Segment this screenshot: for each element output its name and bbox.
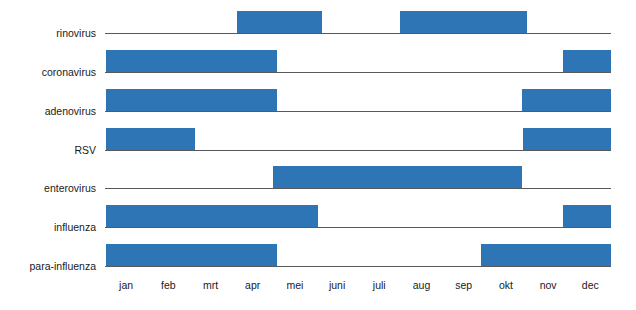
row-baseline <box>105 111 611 112</box>
chart-row: coronavirus <box>0 46 636 86</box>
chart-row: influenza <box>0 201 636 241</box>
bar-para-influenza-0 <box>106 244 277 266</box>
month-axis: janfebmrtaprmeijunijuliaugsepoktnovdec <box>0 278 636 294</box>
chart-row: adenovirus <box>0 85 636 125</box>
month-label-feb: feb <box>147 278 189 292</box>
seasonal-virus-gantt-chart: rinoviruscoronavirusadenovirusRSVenterov… <box>0 0 636 310</box>
month-label-nov: nov <box>527 278 569 292</box>
month-label-okt: okt <box>485 278 527 292</box>
chart-row: RSV <box>0 124 636 164</box>
row-label-adenovirus: adenovirus <box>0 105 96 117</box>
month-label-mrt: mrt <box>189 278 231 292</box>
row-label-enterovirus: enterovirus <box>0 182 96 194</box>
bar-adenovirus-0 <box>106 89 277 111</box>
chart-row: enterovirus <box>0 162 636 202</box>
bar-adenovirus-1 <box>522 89 611 111</box>
bar-rsv-0 <box>106 128 195 150</box>
month-label-jan: jan <box>105 278 147 292</box>
row-baseline <box>105 266 611 267</box>
month-label-juni: juni <box>316 278 358 292</box>
row-label-influenza: influenza <box>0 221 96 233</box>
row-baseline <box>105 33 611 34</box>
month-label-sep: sep <box>443 278 485 292</box>
row-label-para-influenza: para-influenza <box>0 260 96 272</box>
bar-coronavirus-1 <box>563 50 611 72</box>
bar-influenza-0 <box>106 205 318 227</box>
bar-para-influenza-1 <box>481 244 611 266</box>
row-baseline <box>105 72 611 73</box>
bar-rsv-1 <box>523 128 611 150</box>
bar-rinovirus-1 <box>400 11 527 33</box>
row-label-rsv: RSV <box>0 144 96 156</box>
bar-enterovirus-0 <box>273 166 522 188</box>
chart-row: para-influenza <box>0 240 636 280</box>
month-label-aug: aug <box>400 278 442 292</box>
month-label-mei: mei <box>274 278 316 292</box>
bar-influenza-1 <box>563 205 611 227</box>
row-baseline <box>105 188 611 189</box>
bar-rinovirus-0 <box>237 11 322 33</box>
row-baseline <box>105 150 611 151</box>
row-baseline <box>105 227 611 228</box>
bar-coronavirus-0 <box>106 50 277 72</box>
chart-row: rinovirus <box>0 7 636 47</box>
row-label-rinovirus: rinovirus <box>0 27 96 39</box>
month-label-apr: apr <box>232 278 274 292</box>
row-label-coronavirus: coronavirus <box>0 66 96 78</box>
month-label-juli: juli <box>358 278 400 292</box>
month-label-dec: dec <box>569 278 611 292</box>
